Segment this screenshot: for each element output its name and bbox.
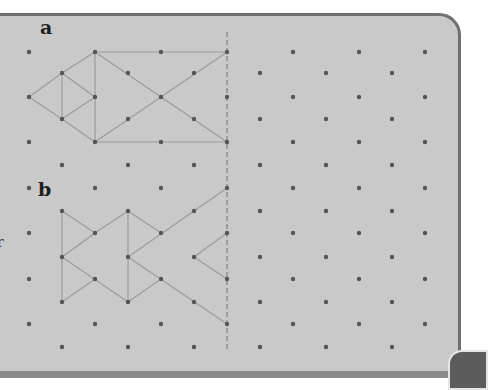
- grid-dot: [126, 71, 130, 75]
- shape-edge: [128, 188, 227, 257]
- grid-dot: [225, 277, 229, 281]
- grid-dot: [258, 255, 262, 259]
- grid-dot: [258, 300, 262, 304]
- grid-dot: [126, 255, 130, 259]
- grid-dot: [192, 345, 196, 349]
- grid-dot: [423, 231, 427, 235]
- grid-dot: [357, 277, 361, 281]
- grid-dot: [390, 163, 394, 167]
- shape-edge: [62, 52, 95, 73]
- grid-dot: [60, 71, 64, 75]
- grid-dot: [192, 209, 196, 213]
- shape-edge: [62, 119, 95, 142]
- grid-dot: [60, 209, 64, 213]
- grid-dot: [390, 209, 394, 213]
- shape-edge: [62, 211, 95, 233]
- grid-dot: [225, 95, 229, 99]
- grid-dot: [423, 140, 427, 144]
- grid-dot: [159, 50, 163, 54]
- shape-edge: [95, 211, 128, 233]
- grid-dot: [291, 322, 295, 326]
- grid-dot: [291, 277, 295, 281]
- grid-dot: [93, 277, 97, 281]
- grid-dot: [126, 209, 130, 213]
- shape-edge: [62, 233, 95, 257]
- grid-dot: [126, 163, 130, 167]
- grid-dot: [225, 231, 229, 235]
- grid-dot: [324, 255, 328, 259]
- grid-dot: [291, 95, 295, 99]
- grid-dot: [192, 71, 196, 75]
- grid-dot: [324, 345, 328, 349]
- grid-dot: [93, 186, 97, 190]
- shape-edge: [29, 97, 62, 119]
- shape-edge: [29, 73, 62, 97]
- grid-dot: [258, 71, 262, 75]
- label-b: b: [38, 178, 51, 200]
- grid-dot: [225, 322, 229, 326]
- grid-dot: [159, 322, 163, 326]
- shape-edge: [128, 279, 161, 302]
- grid-dot: [357, 50, 361, 54]
- grid-dot: [357, 231, 361, 235]
- shape-a: [29, 52, 227, 142]
- grid-dot: [192, 117, 196, 121]
- grid-dot: [390, 117, 394, 121]
- shape-edge: [62, 97, 95, 119]
- grid-dot: [324, 71, 328, 75]
- grid-dot: [93, 140, 97, 144]
- grid-dot: [258, 117, 262, 121]
- grid-dot: [126, 117, 130, 121]
- grid-dot: [291, 140, 295, 144]
- grid-dot: [27, 186, 31, 190]
- grid-dot: [324, 300, 328, 304]
- grid-dot: [60, 300, 64, 304]
- grid-dot: [27, 140, 31, 144]
- grid-dot: [390, 255, 394, 259]
- grid-dot: [126, 345, 130, 349]
- grid-dot: [93, 231, 97, 235]
- shape-edge: [128, 211, 161, 233]
- grid-dot: [27, 95, 31, 99]
- grid-dot: [60, 345, 64, 349]
- grid-dot: [60, 117, 64, 121]
- grid-dot: [225, 186, 229, 190]
- grid-dot: [357, 322, 361, 326]
- grid-dot: [258, 345, 262, 349]
- label-a: a: [40, 16, 52, 38]
- grid-dot: [258, 163, 262, 167]
- grid-dot: [93, 95, 97, 99]
- grid-dot: [192, 300, 196, 304]
- grid-dot: [291, 50, 295, 54]
- grid-dot: [390, 345, 394, 349]
- grid-dot: [60, 255, 64, 259]
- grid-dot: [159, 140, 163, 144]
- grid-dot: [291, 186, 295, 190]
- grid-dot: [390, 71, 394, 75]
- grid-dot: [27, 231, 31, 235]
- grid-dot: [357, 186, 361, 190]
- grid-dot: [423, 95, 427, 99]
- grid-dot: [192, 255, 196, 259]
- grid-dot: [423, 277, 427, 281]
- grid-dot: [126, 300, 130, 304]
- grid-dot: [225, 140, 229, 144]
- grid-dot: [159, 95, 163, 99]
- grid-dot: [357, 140, 361, 144]
- grid-dot: [423, 50, 427, 54]
- grid-dot: [324, 163, 328, 167]
- grid-dot: [192, 163, 196, 167]
- grid-dot: [93, 50, 97, 54]
- grid-dot: [423, 322, 427, 326]
- shape-edge: [194, 257, 227, 279]
- grid-dot: [324, 209, 328, 213]
- grid-dot: [27, 50, 31, 54]
- shape-edge: [128, 257, 227, 324]
- shape-edge: [62, 73, 95, 97]
- grid-dot: [159, 277, 163, 281]
- grid-dot: [291, 231, 295, 235]
- grid-dot: [27, 322, 31, 326]
- grid-dot: [258, 209, 262, 213]
- grid-dot: [357, 95, 361, 99]
